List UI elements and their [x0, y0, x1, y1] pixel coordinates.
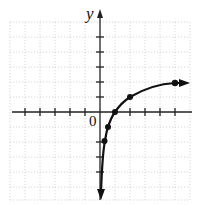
point	[105, 124, 111, 130]
point	[112, 109, 118, 115]
x-axis	[12, 108, 192, 116]
coordinate-plane	[0, 0, 199, 205]
point	[102, 138, 108, 144]
y-axis-label: y	[86, 4, 94, 24]
curve-arrow-down-icon	[97, 189, 105, 200]
origin-label: 0	[89, 113, 97, 130]
y-axis-arrow-icon	[97, 9, 103, 18]
point	[127, 94, 133, 100]
point	[172, 80, 178, 86]
curve-arrow-right-icon	[179, 79, 190, 87]
function-curve	[101, 83, 183, 192]
